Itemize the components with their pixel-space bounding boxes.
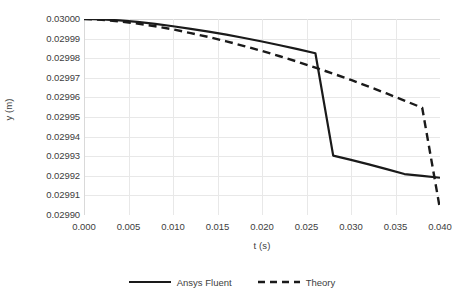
x-axis-tick-label: 0.020: [239, 221, 285, 232]
y-axis-tick-label: 0.02996: [6, 92, 80, 102]
y-axis-tick-label: 0.02997: [6, 73, 80, 83]
x-axis-tick-label: 0.030: [328, 221, 374, 232]
legend-line-swatch: [258, 277, 300, 287]
legend-item[interactable]: Ansys Fluent: [129, 277, 232, 288]
y-axis-tick-label: 0.02994: [6, 132, 80, 142]
x-axis-tick-label: 0.005: [106, 221, 152, 232]
y-axis-tick-label: 0.02991: [6, 190, 80, 200]
series-lines: [84, 19, 440, 215]
x-axis-tick-label: 0.010: [150, 221, 196, 232]
x-axis-title: t (s): [84, 240, 440, 251]
y-axis-tick-label: 0.02993: [6, 151, 80, 161]
y-axis-tick-label: 0.02998: [6, 53, 80, 63]
legend-line-swatch: [129, 277, 171, 287]
x-axis-tick-label: 0.015: [195, 221, 241, 232]
x-axis-tick-label: 0.025: [284, 221, 330, 232]
y-axis-tick-label: 0.02990: [6, 210, 80, 220]
y-axis-tick-label: 0.02992: [6, 171, 80, 181]
x-axis-tick-labels: 0.0000.0050.0100.0150.0200.0250.0300.035…: [84, 221, 440, 235]
plot-area: [84, 19, 440, 215]
series-line-theory: [84, 19, 440, 209]
y-axis-tick-label: 0.02995: [6, 112, 80, 122]
legend-label: Ansys Fluent: [177, 277, 232, 288]
y-axis-tick-label: 0.03000: [6, 14, 80, 24]
x-axis-tick-label: 0.040: [417, 221, 463, 232]
chart-legend: Ansys FluentTheory: [0, 272, 464, 292]
legend-item[interactable]: Theory: [258, 277, 336, 288]
legend-label: Theory: [306, 277, 336, 288]
series-line-ansys-fluent: [84, 19, 440, 178]
x-axis-tick-label: 0.035: [373, 221, 419, 232]
y-axis-tick-label: 0.02999: [6, 34, 80, 44]
x-axis-tick-label: 0.000: [61, 221, 107, 232]
line-chart: y (m) 0.029900.029910.029920.029930.0299…: [0, 0, 464, 302]
y-axis-tick-labels: 0.029900.029910.029920.029930.029940.029…: [2, 0, 80, 302]
